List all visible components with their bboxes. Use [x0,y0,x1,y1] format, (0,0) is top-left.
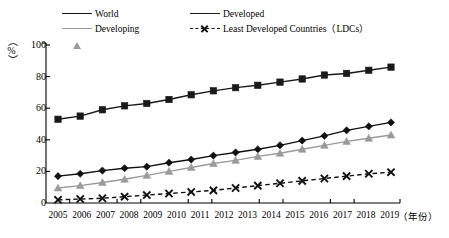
data-point-diamond [99,167,106,174]
data-point-diamond [343,127,350,134]
data-point-square [188,92,194,98]
data-point-diamond [387,119,394,126]
axis-lines [42,43,400,203]
series-least-developed-countries-ldcs [54,169,394,204]
data-point-square [388,64,394,70]
data-point-diamond [321,132,328,139]
data-point-diamond [143,163,150,170]
data-point-diamond [254,146,261,153]
data-point-square [299,76,305,82]
series-world [54,119,394,180]
y-ticks [46,45,50,171]
data-point-square [210,88,216,94]
x-ticks [70,199,400,203]
data-point-diamond [121,165,128,172]
data-point-square [77,113,83,119]
data-point-square [366,67,372,73]
series-line [58,67,391,119]
chart-figure: World Developed Developing Least Develop… [0,0,449,238]
data-point-square [166,96,172,102]
data-point-diamond [299,137,306,144]
data-point-square [55,116,61,122]
data-point-square [321,72,327,78]
data-point-square [255,82,261,88]
chart-plot-area [0,0,449,238]
data-point-square [121,103,127,109]
series-developing [54,131,395,191]
data-point-diamond [276,142,283,149]
series-line [58,135,391,188]
data-point-square [277,79,283,85]
data-point-diamond [365,123,372,130]
series-developed [55,64,394,123]
data-point-square [144,100,150,106]
data-point-diamond [210,152,217,159]
data-point-diamond [54,173,61,180]
data-point-square [232,84,238,90]
data-point-diamond [77,170,84,177]
data-point-square [99,107,105,113]
data-point-diamond [232,149,239,156]
data-point-triangle [387,131,395,138]
data-point-diamond [188,156,195,163]
data-point-diamond [165,159,172,166]
series-line [58,172,391,200]
data-point-square [343,70,349,76]
series-line [58,122,391,176]
